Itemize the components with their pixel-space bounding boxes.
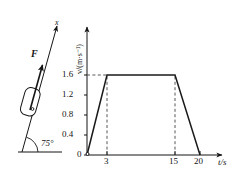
x-axis-title: t/s — [218, 158, 227, 167]
velocity-time-graph — [84, 27, 222, 156]
angle-arc — [26, 137, 38, 152]
y-tick-label-0p4: 0.4 — [62, 130, 73, 139]
figure-root: x F 75° v/(m·s⁻¹) 1.6 1.2 0.8 0.4 0 3 15… — [0, 0, 240, 173]
x-tick-label-20: 20 — [194, 157, 203, 166]
y-tick-label-0: 0 — [77, 150, 82, 159]
velocity-curve — [87, 75, 200, 155]
block-pivot-dot — [31, 108, 34, 111]
block-on-incline — [19, 86, 41, 117]
y-tick-label-1p6: 1.6 — [62, 70, 73, 79]
incline-angle-label: 75° — [41, 139, 54, 148]
y-tick-label-1p2: 1.2 — [62, 90, 73, 99]
y-tick-label-0p8: 0.8 — [62, 110, 73, 119]
x-tick-label-15: 15 — [169, 157, 178, 166]
force-label: F — [31, 49, 38, 59]
x-axis-ticks — [107, 151, 200, 155]
figure-canvas — [0, 0, 240, 173]
incline-force-diagram — [18, 26, 62, 152]
x-tick-label-3: 3 — [104, 157, 109, 166]
incline-x-axis-label: x — [55, 19, 59, 27]
y-axis-title: v/(m·s⁻¹) — [76, 44, 84, 74]
origin-dot — [86, 153, 89, 156]
